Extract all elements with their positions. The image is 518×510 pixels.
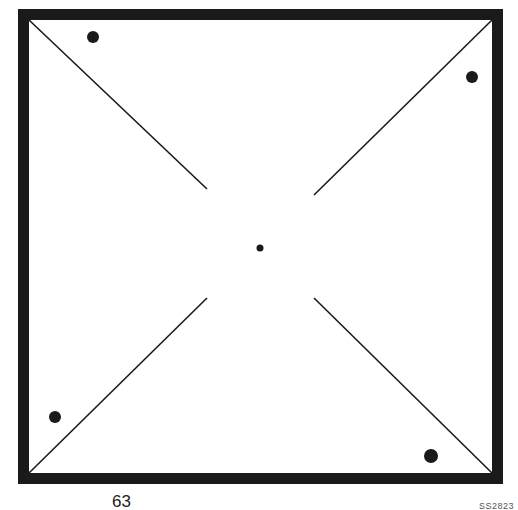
diagonal-line-2: [29, 298, 207, 473]
bottom-left-dot: [49, 411, 61, 423]
diagonal-line-1: [314, 20, 492, 195]
diagonal-line-3: [314, 298, 492, 473]
page-number: 63: [112, 492, 131, 510]
top-right-dot: [466, 71, 478, 83]
top-left-dot: [87, 31, 99, 43]
diagonal-line-0: [29, 20, 207, 189]
diagram-canvas: [0, 0, 518, 510]
center-dot: [257, 245, 264, 252]
figure-code: SS2823: [479, 501, 514, 510]
bottom-right-dot: [424, 449, 438, 463]
